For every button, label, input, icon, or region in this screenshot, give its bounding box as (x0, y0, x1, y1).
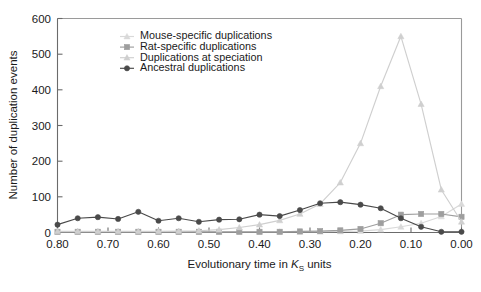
x-tick-label-0.30: 0.30 (299, 238, 321, 250)
x-tick-label-0.20: 0.20 (349, 238, 371, 250)
data-point (277, 229, 282, 234)
data-point (459, 229, 464, 234)
data-point (156, 218, 161, 223)
data-point (176, 216, 181, 221)
data-point (439, 211, 444, 216)
data-point (438, 187, 444, 193)
x-tick-label-0.60: 0.60 (147, 238, 169, 250)
data-point (297, 207, 302, 212)
x-axis-title-suffix: units (304, 258, 332, 270)
chart-figure: 600 500 400 300 200 100 0 Number of dupl… (0, 0, 481, 292)
y-tick-label-600: 600 (32, 13, 51, 25)
data-point (318, 228, 323, 233)
data-point (116, 216, 121, 221)
data-point (136, 209, 141, 214)
data-point (75, 216, 80, 221)
data-point (398, 33, 404, 39)
data-point (338, 228, 343, 233)
y-tick-label-500: 500 (32, 48, 51, 60)
y-tick-label-300: 300 (32, 120, 51, 132)
x-tick-label-0.40: 0.40 (248, 238, 270, 250)
x-tick-label-0.00: 0.00 (450, 238, 472, 250)
x-axis-tick-labels: 0.80 0.70 0.60 0.50 0.40 0.30 0.20 0.10 … (46, 238, 472, 250)
data-point (277, 213, 282, 218)
y-tick-label-400: 400 (32, 84, 51, 96)
y-tick-label-100: 100 (32, 191, 51, 203)
data-point (378, 206, 383, 211)
x-tick-label-0.70: 0.70 (97, 238, 119, 250)
legend-item-ancestral-duplications[interactable]: Ancestral duplications (120, 61, 246, 73)
data-point (338, 200, 343, 205)
data-point (419, 224, 424, 229)
chart-legend: Mouse-specific duplicationsRat-specific … (120, 29, 273, 73)
x-tick-label-0.10: 0.10 (400, 238, 422, 250)
data-point (196, 219, 201, 224)
data-point (257, 229, 262, 234)
data-point (217, 217, 222, 222)
legend-label: Ancestral duplications (140, 61, 246, 73)
data-point (95, 215, 100, 220)
legend-marker-circle-icon (124, 66, 129, 71)
data-point (237, 217, 242, 222)
series-line (58, 36, 462, 231)
data-point (358, 202, 363, 207)
data-point (378, 83, 384, 89)
y-tick-label-200: 200 (32, 155, 51, 167)
data-point (357, 140, 363, 146)
x-tick-label-0.80: 0.80 (46, 238, 68, 250)
data-point (297, 229, 302, 234)
data-point (419, 211, 424, 216)
data-point (398, 216, 403, 221)
legend-marker-square-icon (124, 45, 129, 50)
x-tick-label-0.50: 0.50 (198, 238, 220, 250)
data-point (257, 212, 262, 217)
series-duplications-at-speciation (54, 33, 464, 234)
x-axis-title-prefix: Evolutionary time in (187, 258, 291, 270)
data-point (337, 179, 343, 185)
series-layer (54, 33, 464, 234)
data-point (318, 201, 323, 206)
data-point (55, 222, 60, 227)
data-point (378, 221, 383, 226)
x-axis-title: Evolutionary time in KS units (187, 258, 331, 273)
y-axis-title: Number of duplication events (7, 50, 19, 199)
duplication-events-line-chart: 600 500 400 300 200 100 0 Number of dupl… (0, 0, 481, 292)
data-point (418, 101, 424, 107)
y-tick-label-0: 0 (45, 227, 51, 239)
y-axis-tick-labels: 600 500 400 300 200 100 0 (32, 13, 51, 239)
data-point (358, 226, 363, 231)
data-point (458, 201, 464, 207)
y-axis-ticks (58, 19, 63, 197)
data-point (439, 229, 444, 234)
